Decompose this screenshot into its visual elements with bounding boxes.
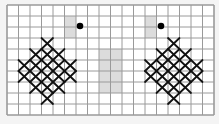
cross-stitch-chart: [0, 0, 219, 124]
shaded-cell: [145, 16, 157, 27]
marker-dot-icon: [77, 23, 84, 30]
shaded-cell: [65, 27, 77, 38]
shaded-cell: [111, 71, 123, 82]
shaded-cell: [99, 60, 111, 71]
shaded-cell: [99, 49, 111, 60]
shaded-cell: [99, 82, 111, 93]
shaded-cell: [65, 16, 77, 27]
shaded-cell: [145, 27, 157, 38]
shaded-cell: [99, 71, 111, 82]
shaded-cell: [111, 60, 123, 71]
shaded-cell: [111, 49, 123, 60]
marker-dot-icon: [158, 23, 165, 30]
shaded-cell: [111, 82, 123, 93]
